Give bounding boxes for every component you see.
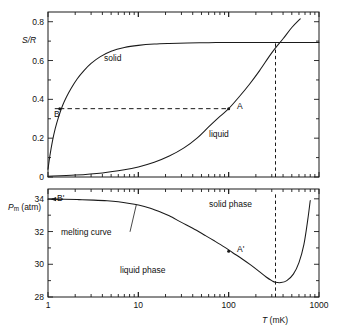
lower-y-axis-title: Pm (atm) — [8, 203, 41, 212]
y-tick-label: 0.6 — [14, 57, 44, 66]
y-tick-label: 0.2 — [14, 134, 44, 143]
series-solid — [48, 42, 319, 169]
region-label-solid-phase: solid phase — [209, 200, 252, 209]
lower-arrow-head — [51, 197, 57, 201]
x-axis-title: T (mK) — [262, 316, 288, 325]
point-a-label: A — [237, 102, 243, 111]
x-tick-label: 1000 — [305, 301, 333, 310]
curve-label-liquid: liquid — [209, 130, 229, 139]
y-tick-label: 32 — [14, 228, 44, 237]
x-tick-label: 10 — [124, 301, 152, 310]
point-a-prime-label: A' — [237, 245, 244, 254]
series-melting-curve — [48, 199, 310, 283]
upper-plot-frame — [48, 12, 319, 177]
plot-svg — [0, 0, 338, 333]
lower-y-axis-subscript: m — [14, 205, 19, 212]
lower-marker-A-prime — [227, 250, 230, 253]
y-tick-label: 0.4 — [14, 95, 44, 104]
lower-y-axis-unit: (atm) — [21, 202, 41, 212]
y-tick-label: 28 — [14, 293, 44, 302]
lower-callout-leader-line — [130, 205, 136, 232]
figure-root: 110100100000.20.40.60.828303234 — [0, 0, 338, 333]
y-tick-label: 0 — [14, 173, 44, 182]
x-axis-unit: (mK) — [270, 315, 288, 325]
callout-label-melting-curve: melting curve — [61, 228, 112, 237]
point-b-prime-label: B' — [57, 194, 64, 203]
y-tick-label: 30 — [14, 260, 44, 269]
upper-y-axis-title: S/R — [22, 36, 36, 45]
x-axis-symbol: T — [262, 315, 267, 325]
x-tick-label: 1 — [34, 301, 62, 310]
point-b-label: B — [54, 110, 60, 119]
region-label-liquid-phase: liquid phase — [120, 266, 165, 275]
x-tick-label: 100 — [215, 301, 243, 310]
y-tick-label: 0.8 — [14, 18, 44, 27]
curve-label-solid: solid — [104, 54, 121, 63]
lower-plot-frame — [48, 189, 319, 297]
